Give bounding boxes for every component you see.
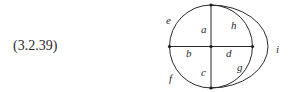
edge-g [211, 47, 253, 89]
vertex-top [209, 3, 212, 6]
label-f: f [169, 72, 174, 84]
label-a: a [201, 23, 207, 35]
vertex-right [251, 45, 254, 48]
label-e: e [166, 14, 171, 26]
vertex-left [168, 45, 171, 48]
vertex-bottom [209, 86, 212, 89]
label-h: h [231, 19, 237, 31]
vertex-center [209, 45, 212, 48]
label-c: c [201, 66, 206, 78]
label-d: d [226, 47, 232, 59]
graph-diagram: e a h b d i c g f [0, 0, 292, 92]
label-b: b [186, 47, 192, 59]
label-i: i [276, 43, 279, 55]
label-g: g [237, 61, 243, 73]
